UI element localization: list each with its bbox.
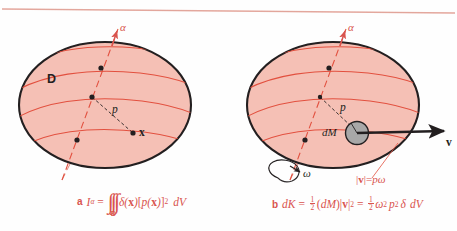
formula-b-omega-exponent: 2 xyxy=(383,200,387,209)
top-rule xyxy=(2,9,455,13)
distance-label-p-a: p xyxy=(112,104,118,116)
formula-b-equals-1: = xyxy=(299,198,306,210)
formula-a-p-open: p( xyxy=(142,196,152,208)
formula-b-v-exponent: 2 xyxy=(350,200,354,209)
speed-relation-label: |v|=pω xyxy=(356,174,385,185)
axis-foot-point-a xyxy=(74,137,79,142)
formula-b-half-1-num: 1 xyxy=(310,196,316,204)
formula-b-p-exponent: 2 xyxy=(395,200,399,209)
formula-b-half-1-den: 2 xyxy=(310,203,316,212)
axis-foot-point-b xyxy=(302,137,307,142)
formula-a-triple-integral: ∫∫∫ D xyxy=(108,192,117,212)
formula-a-density-open: δ( xyxy=(119,196,128,208)
point-label-x: x xyxy=(139,127,145,139)
angular-velocity-indicator xyxy=(269,160,300,182)
formula-a-integral-subscript: D xyxy=(111,209,116,218)
axis-upper-point-a xyxy=(98,65,103,70)
distance-label-p-b: p xyxy=(340,102,346,114)
axis-label-alpha-b: α xyxy=(348,22,354,33)
velocity-label-v: v xyxy=(446,137,452,149)
speed-rhs-omega: ω xyxy=(378,173,386,185)
angular-velocity-label-omega: ω xyxy=(303,168,311,179)
formula-b-tag: b xyxy=(272,199,278,210)
formula-b-half-2: 1 2 xyxy=(368,196,374,213)
formula-a-lhs-subscript: α xyxy=(90,197,94,206)
figure-container: α D p x α p dM v ω |v|=pω a Iα = ∫∫∫ D δ… xyxy=(0,0,457,231)
formula-b-half-2-num: 1 xyxy=(368,196,374,204)
formula-a: a Iα = ∫∫∫ D δ(x)[p(x)]2 dV xyxy=(77,192,186,212)
formula-a-differential: dV xyxy=(173,196,186,208)
formula-a-equals: = xyxy=(97,196,104,208)
axis-label-alpha-a: α xyxy=(120,22,126,33)
region-label-d: D xyxy=(47,73,56,86)
formula-b-half-1: 1 2 xyxy=(310,196,316,213)
formula-b-half-2-den: 2 xyxy=(368,203,374,212)
formula-a-tag: a xyxy=(77,196,83,207)
formula-b: b dK = 1 2 (dM)|v|2 = 1 2 ω2p2δ dV xyxy=(272,196,423,213)
mass-element-label-dm: dM xyxy=(322,127,337,138)
formula-a-exponent: 2 xyxy=(165,197,169,206)
panel-a-artwork xyxy=(4,29,214,180)
panel-b-artwork xyxy=(232,29,444,182)
formula-b-omega: ω xyxy=(375,198,383,210)
formula-b-lhs: dK xyxy=(282,198,295,210)
formula-b-delta: δ xyxy=(401,198,406,210)
axis-upper-point-b xyxy=(326,65,331,70)
formula-b-differential: dV xyxy=(410,198,423,210)
formula-b-equals-2: = xyxy=(357,198,364,210)
formula-b-dm: dM xyxy=(321,198,336,210)
